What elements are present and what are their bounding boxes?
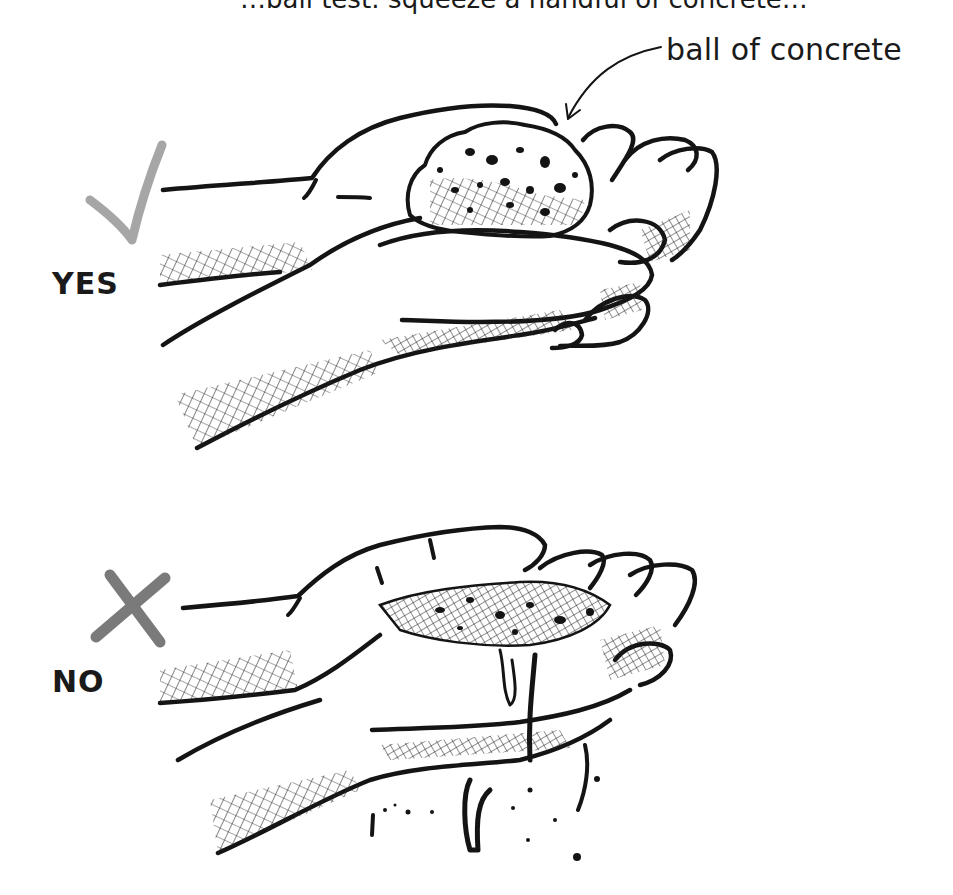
callout-arrow-icon (566, 47, 661, 119)
illustration (0, 0, 953, 895)
hands-holding-ball-drawing (160, 106, 717, 449)
check-icon (90, 145, 162, 240)
hands-dripping-concrete-drawing (160, 527, 695, 861)
cross-icon (96, 575, 165, 642)
